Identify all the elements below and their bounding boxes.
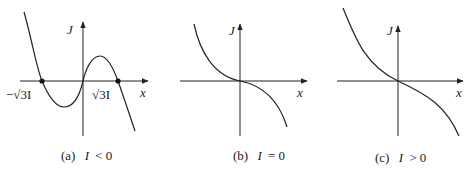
x-axis-label: x: [139, 85, 146, 100]
root-left-label: −√3I: [6, 87, 31, 102]
y-axis-label: J: [229, 23, 236, 38]
y-axis-label: J: [67, 22, 74, 37]
x-axis-label: x: [455, 85, 462, 100]
cubic-curve: [24, 12, 135, 131]
panel-a: J x −√3I √3I (a) I < 0: [6, 12, 148, 163]
figure-canvas: J x −√3I √3I (a) I < 0 J x (b) I = 0 J x…: [0, 0, 473, 174]
panel-c: J x (c) I > 0: [337, 8, 463, 165]
caption-b: (b) I = 0: [233, 148, 285, 163]
x-axis-label: x: [296, 85, 303, 100]
root-point-right: [115, 78, 120, 83]
y-axis-label: J: [387, 23, 394, 38]
cubic-curve: [343, 8, 459, 136]
caption-a: (a) I < 0: [61, 148, 112, 163]
root-point-left: [39, 78, 44, 83]
root-right-label: √3I: [92, 87, 110, 102]
panel-b: J x (b) I = 0: [180, 23, 307, 163]
caption-c: (c) I > 0: [375, 150, 426, 165]
